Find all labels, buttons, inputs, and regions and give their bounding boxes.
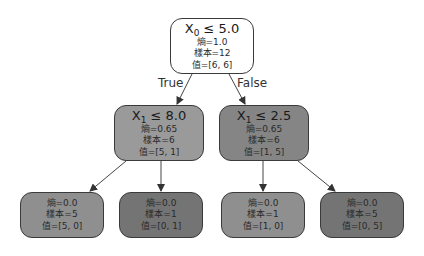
entropy-text: 熵=0.65 — [246, 124, 283, 136]
edge-right-leaf4 — [298, 161, 335, 191]
entropy-text: 熵=0.0 — [248, 198, 279, 210]
samples-text: 樣本=6 — [143, 135, 174, 147]
right-node: X1 ≤ 2.5 熵=0.65 樣本=6 值=[1, 5] — [219, 105, 309, 161]
false-edge-label: False — [237, 76, 267, 90]
value-text: 值=[5, 1] — [139, 147, 180, 159]
edge-left-leaf1 — [90, 161, 126, 191]
entropy-text: 熵=0.0 — [47, 198, 78, 210]
value-text: 值=[0, 1] — [141, 221, 182, 233]
root-node: X0 ≤ 5.0 熵=1.0 樣本=12 值=[6, 6] — [170, 18, 254, 74]
samples-text: 樣本=12 — [194, 48, 231, 60]
value-text: 值=[5, 0] — [42, 221, 83, 233]
entropy-text: 熵=0.65 — [141, 124, 178, 136]
split-condition: X0 ≤ 5.0 — [185, 21, 240, 36]
split-condition: X1 ≤ 8.0 — [132, 108, 187, 123]
entropy-text: 熵=0.0 — [347, 198, 378, 210]
value-text: 值=[6, 6] — [192, 60, 233, 72]
samples-text: 樣本=6 — [248, 135, 279, 147]
value-text: 值=[0, 5] — [342, 221, 383, 233]
left-node: X1 ≤ 8.0 熵=0.65 樣本=6 值=[5, 1] — [114, 105, 204, 161]
entropy-text: 熵=1.0 — [197, 37, 228, 49]
leaf-node-2: 熵=0.0 樣本=1 值=[0, 1] — [119, 192, 203, 238]
samples-text: 樣本=5 — [346, 209, 377, 221]
leaf-node-4: 熵=0.0 樣本=5 值=[0, 5] — [320, 192, 404, 238]
samples-text: 樣本=1 — [145, 209, 176, 221]
true-edge-label: True — [158, 76, 184, 90]
samples-text: 樣本=5 — [46, 209, 77, 221]
value-text: 值=[1, 0] — [243, 221, 284, 233]
leaf-node-3: 熵=0.0 樣本=1 值=[1, 0] — [221, 192, 305, 238]
entropy-text: 熵=0.0 — [146, 198, 177, 210]
value-text: 值=[1, 5] — [244, 147, 285, 159]
samples-text: 樣本=1 — [247, 209, 278, 221]
leaf-node-1: 熵=0.0 樣本=5 值=[5, 0] — [20, 192, 104, 238]
split-condition: X1 ≤ 2.5 — [237, 108, 292, 123]
